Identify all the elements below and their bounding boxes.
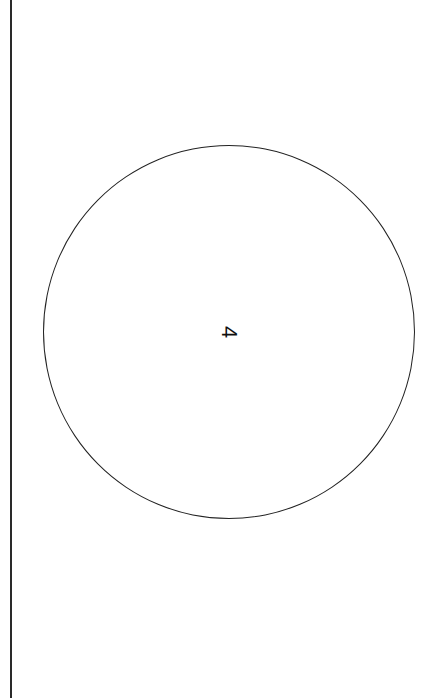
left-border-line (10, 0, 12, 698)
circle-label: 4 (218, 326, 240, 338)
